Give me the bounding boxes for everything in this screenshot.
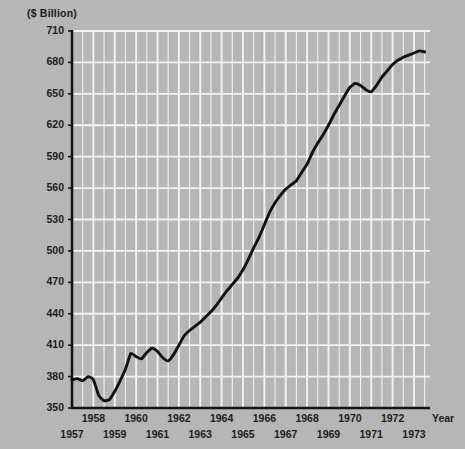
x-axis-tick-label: 1971 — [360, 428, 383, 440]
x-axis-tick-label: 1970 — [338, 412, 361, 424]
y-axis-tick-label: 560 — [24, 181, 64, 193]
x-axis-tick-label: 1966 — [253, 412, 276, 424]
y-axis-tick-label: 410 — [24, 338, 64, 350]
y-axis-tick-label: 350 — [24, 401, 64, 413]
x-axis-tick-label: 1961 — [146, 428, 169, 440]
chart-plot-canvas — [0, 0, 465, 449]
y-axis-tick-label: 470 — [24, 275, 64, 287]
x-axis-tick-label: 1958 — [82, 412, 105, 424]
x-axis-tick-label: 1973 — [402, 428, 425, 440]
x-axis-tick-label: 1962 — [167, 412, 190, 424]
x-axis-tick-label: 1968 — [295, 412, 318, 424]
y-axis-tick-label: 590 — [24, 150, 64, 162]
chart-figure: ($ Billion) 3503804104404705005305605906… — [0, 0, 465, 449]
x-axis-tick-label: 1960 — [124, 412, 147, 424]
x-axis-tick-label: 1964 — [210, 412, 233, 424]
x-axis-tick-label: 1967 — [274, 428, 297, 440]
y-axis-tick-label: 380 — [24, 370, 64, 382]
y-axis-tick-label: 710 — [24, 24, 64, 36]
y-axis-tick-label: 650 — [24, 87, 64, 99]
x-axis-tick-label: 1957 — [60, 428, 83, 440]
x-axis-tick-label: 1972 — [381, 412, 404, 424]
y-axis-tick-label: 620 — [24, 118, 64, 130]
y-axis-tick-label: 530 — [24, 213, 64, 225]
x-axis-tick-label: 1963 — [189, 428, 212, 440]
x-axis-tick-label: 1969 — [317, 428, 340, 440]
y-axis-tick-label: 440 — [24, 307, 64, 319]
x-axis-title: Year — [432, 412, 454, 424]
y-axis-tick-label: 680 — [24, 55, 64, 67]
x-axis-tick-label: 1965 — [231, 428, 254, 440]
x-axis-tick-label: 1959 — [103, 428, 126, 440]
y-axis-tick-label: 500 — [24, 244, 64, 256]
